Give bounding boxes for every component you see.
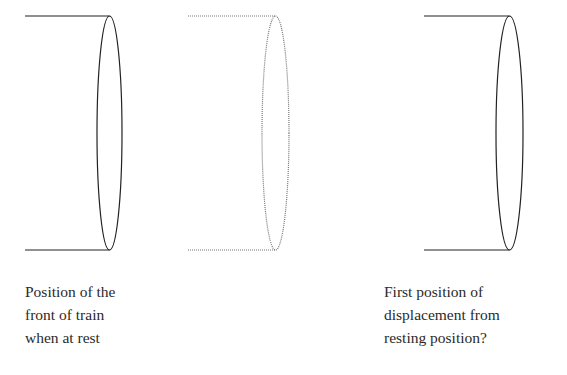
rest-position-caption: Position of the front of train when at r… bbox=[25, 280, 175, 349]
cylinder-intermediate-position bbox=[188, 16, 289, 250]
cylinder-rest-position bbox=[25, 16, 122, 250]
cylinder-front-face bbox=[97, 16, 122, 250]
cylinder-displaced-position bbox=[424, 16, 523, 250]
displacement-position-caption: First position of displacement from rest… bbox=[384, 280, 564, 349]
cylinder-front-face bbox=[496, 16, 523, 250]
cylinder-front-face bbox=[262, 16, 289, 250]
